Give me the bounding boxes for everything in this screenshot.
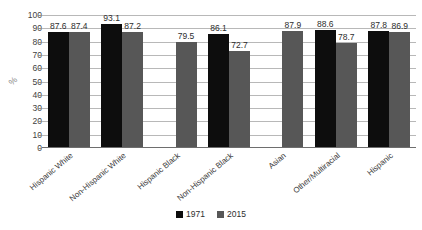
y-tick-mark: [38, 95, 42, 96]
bar-chart: % 1009080706050403020100 87.687.493.187.…: [0, 0, 422, 230]
bar-2015[interactable]: 86.9: [389, 32, 410, 148]
x-label-cell: Non-Hispanic Black: [202, 149, 255, 211]
bar-value-label: 88.6: [317, 19, 334, 29]
bar-value-label: 93.1: [103, 13, 120, 23]
bar-value-label: 86.9: [391, 21, 408, 31]
legend-item[interactable]: 2015: [217, 210, 246, 219]
y-tick-mark: [38, 82, 42, 83]
bar-slot: 87.8: [368, 15, 389, 148]
x-label-cell: Other/Multiracial: [309, 149, 362, 211]
bar-slot: 86.1: [208, 15, 229, 148]
bar-group: 86.172.7: [202, 15, 255, 148]
bar-slot: 78.7: [336, 15, 357, 148]
bar-2015[interactable]: 72.7: [229, 51, 250, 148]
bar-1971[interactable]: 88.6: [315, 30, 336, 148]
plot-area: 87.687.493.187.279.586.172.787.988.678.7…: [42, 15, 416, 148]
bar-slot: 87.9: [282, 15, 303, 148]
bar-1971[interactable]: 93.1: [101, 24, 122, 148]
bar-group: 87.687.4: [42, 15, 95, 148]
bar-group: 79.5: [149, 15, 202, 148]
bar-slot: 87.4: [69, 15, 90, 148]
legend-label: 1971: [186, 210, 205, 219]
bar-1971[interactable]: 87.8: [368, 31, 389, 148]
x-label-cell: Hispanic: [363, 149, 416, 211]
bar-slot: 72.7: [229, 15, 250, 148]
x-axis-label: Asian: [267, 151, 288, 171]
x-axis-line: [42, 147, 416, 148]
bar-groups: 87.687.493.187.279.586.172.787.988.678.7…: [42, 15, 416, 148]
y-tick-mark: [38, 55, 42, 56]
bar-2015[interactable]: 87.4: [69, 32, 90, 148]
bar-slot: 87.2: [122, 15, 143, 148]
bar-value-label: 87.9: [285, 20, 302, 30]
bar-value-label: 87.8: [370, 20, 387, 30]
x-axis-label: Hispanic: [366, 151, 395, 178]
y-tick-mark: [38, 135, 42, 136]
bar-group: 88.678.7: [309, 15, 362, 148]
bar-value-label: 78.7: [338, 32, 355, 42]
bar-slot: 88.6: [315, 15, 336, 148]
bar-1971[interactable]: 87.6: [48, 32, 69, 149]
y-tick-mark: [38, 121, 42, 122]
bar-value-label: 87.4: [71, 21, 88, 31]
y-tick-mark: [38, 28, 42, 29]
y-tick-mark: [38, 68, 42, 69]
bar-slot: 86.9: [389, 15, 410, 148]
x-axis-label: Hispanic White: [28, 151, 75, 192]
bar-value-label: 79.5: [178, 31, 195, 41]
y-tick-mark: [38, 15, 42, 16]
y-tick-mark: [38, 108, 42, 109]
bar-value-label: 87.6: [50, 21, 67, 31]
bar-slot: 79.5: [176, 15, 197, 148]
legend-swatch-icon: [176, 211, 183, 218]
bar-2015[interactable]: 87.9: [282, 31, 303, 148]
bar-2015[interactable]: 78.7: [336, 43, 357, 148]
bar-slot: 93.1: [101, 15, 122, 148]
bar-group: 93.187.2: [95, 15, 148, 148]
x-axis-category-labels: Hispanic WhiteNon-Hispanic WhiteHispanic…: [42, 149, 416, 211]
bar-group: 87.886.9: [363, 15, 416, 148]
bar-2015[interactable]: 87.2: [122, 32, 143, 148]
chart-legend: 19712015: [0, 210, 422, 219]
bar-value-label: 87.2: [124, 21, 141, 31]
bar-slot: [155, 15, 176, 148]
bar-group: 87.9: [256, 15, 309, 148]
legend-swatch-icon: [217, 211, 224, 218]
legend-label: 2015: [227, 210, 246, 219]
bar-slot: 87.6: [48, 15, 69, 148]
bar-1971[interactable]: 86.1: [208, 34, 229, 149]
bar-value-label: 86.1: [210, 23, 227, 33]
y-tick-mark: [38, 42, 42, 43]
legend-item[interactable]: 1971: [176, 210, 205, 219]
bar-value-label: 72.7: [231, 40, 248, 50]
bar-slot: [261, 15, 282, 148]
bar-2015[interactable]: 79.5: [176, 42, 197, 148]
